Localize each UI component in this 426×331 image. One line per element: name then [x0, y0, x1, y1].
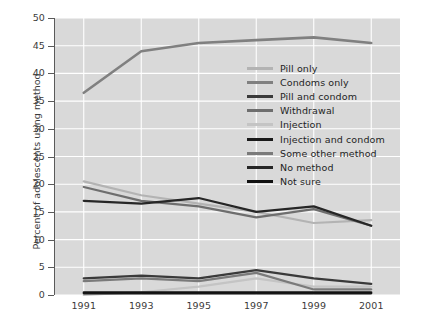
- legend-swatch-icon: [247, 95, 273, 98]
- y-tick-mark: [48, 46, 54, 47]
- x-tick-label: 2001: [359, 300, 384, 311]
- legend-swatch-icon: [247, 152, 273, 155]
- legend-item-label: Not sure: [280, 176, 321, 187]
- y-tick-mark: [48, 184, 54, 185]
- legend-item-label: No method: [280, 162, 334, 173]
- y-tick-mark: [48, 101, 54, 102]
- legend-swatch-icon: [247, 109, 273, 112]
- x-tick-label: 1993: [129, 300, 154, 311]
- legend-item[interactable]: Some other method: [247, 146, 385, 160]
- legend-swatch-icon: [247, 81, 273, 84]
- y-tick-mark: [48, 240, 54, 241]
- y-tick-mark: [48, 212, 54, 213]
- legend-item-label: Withdrawal: [280, 105, 335, 116]
- y-axis-line: [54, 18, 55, 295]
- legend-swatch-icon: [247, 123, 273, 126]
- y-tick-mark: [48, 295, 54, 296]
- y-tick-mark: [48, 267, 54, 268]
- y-tick-mark: [48, 73, 54, 74]
- legend-item-label: Pill only: [280, 63, 317, 74]
- legend-item[interactable]: Condoms only: [247, 75, 385, 89]
- legend-item[interactable]: Injection and condom: [247, 132, 385, 146]
- x-tick-label: 1991: [71, 300, 96, 311]
- y-tick-mark: [48, 157, 54, 158]
- legend-item-label: Injection: [280, 119, 322, 130]
- legend-item[interactable]: Pill only: [247, 61, 385, 75]
- legend-swatch-icon: [247, 180, 273, 183]
- legend-item[interactable]: Withdrawal: [247, 104, 385, 118]
- legend-item-label: Condoms only: [280, 77, 349, 88]
- line-chart: 05101520253035404550 1991199319951997199…: [0, 0, 426, 331]
- legend-item[interactable]: Not sure: [247, 175, 385, 189]
- x-tick-label: 1995: [186, 300, 211, 311]
- y-tick-mark: [48, 129, 54, 130]
- x-tick-label: 1997: [244, 300, 269, 311]
- legend-item-label: Injection and condom: [280, 134, 385, 145]
- y-tick-mark: [48, 18, 54, 19]
- legend-item[interactable]: Injection: [247, 118, 385, 132]
- y-tick-label: 0: [39, 289, 45, 300]
- legend-item-label: Some other method: [280, 148, 377, 159]
- legend-item-label: Pill and condom: [280, 91, 357, 102]
- legend-item[interactable]: No method: [247, 160, 385, 174]
- chart-legend: Pill onlyCondoms onlyPill and condomWith…: [247, 61, 385, 189]
- y-tick-label: 50: [33, 12, 45, 23]
- legend-swatch-icon: [247, 138, 273, 141]
- x-tick-label: 1999: [301, 300, 326, 311]
- legend-item[interactable]: Pill and condom: [247, 89, 385, 103]
- legend-swatch-icon: [247, 67, 273, 70]
- legend-swatch-icon: [247, 166, 273, 169]
- y-axis-title: Percent of adolescents using method: [31, 44, 42, 279]
